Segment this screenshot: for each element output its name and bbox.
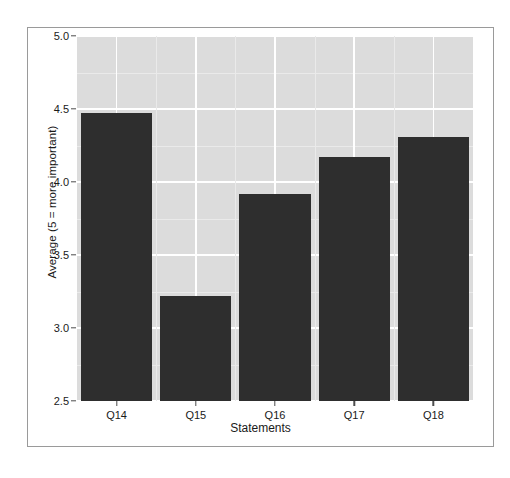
y-tick-mark xyxy=(71,327,76,328)
x-axis-title: Statements xyxy=(28,421,493,435)
figure-frame: Average (5 = more important) 2.53.03.54.… xyxy=(27,27,494,447)
x-tick-label: Q15 xyxy=(185,409,206,421)
gridline-minor-vertical xyxy=(156,36,157,401)
y-tick-mark xyxy=(71,254,76,255)
y-tick-label: 3.0 xyxy=(29,322,69,334)
gridline-minor-vertical xyxy=(235,36,236,401)
y-tick-label: 3.5 xyxy=(29,249,69,261)
x-tick-label: Q14 xyxy=(106,409,127,421)
bar-q18[interactable] xyxy=(398,137,469,401)
bar-q14[interactable] xyxy=(81,113,152,401)
y-tick-label: 5.0 xyxy=(29,30,69,42)
plot-panel xyxy=(77,36,473,401)
y-tick-mark xyxy=(71,181,76,182)
x-tick-mark xyxy=(353,401,354,406)
bar-q17[interactable] xyxy=(319,157,390,401)
gridline-minor-vertical xyxy=(394,36,395,401)
bar-q16[interactable] xyxy=(239,194,310,401)
x-tick-mark xyxy=(195,401,196,406)
y-tick-label: 4.0 xyxy=(29,176,69,188)
x-tick-label: Q18 xyxy=(423,409,444,421)
bar-q15[interactable] xyxy=(160,296,231,401)
y-axis-ticks: 2.53.03.54.04.55.0 xyxy=(28,36,69,401)
x-tick-mark xyxy=(116,401,117,406)
gridline-minor-vertical xyxy=(315,36,316,401)
y-tick-mark xyxy=(71,400,76,401)
y-tick-label: 2.5 xyxy=(29,395,69,407)
y-tick-mark xyxy=(71,35,76,36)
x-tick-mark xyxy=(274,401,275,406)
x-tick-mark xyxy=(433,401,434,406)
page-root: Average (5 = more important) 2.53.03.54.… xyxy=(0,0,510,478)
y-tick-mark xyxy=(71,108,76,109)
x-tick-label: Q17 xyxy=(344,409,365,421)
bar-chart: Average (5 = more important) 2.53.03.54.… xyxy=(28,28,493,446)
y-tick-label: 4.5 xyxy=(29,103,69,115)
x-tick-label: Q16 xyxy=(265,409,286,421)
